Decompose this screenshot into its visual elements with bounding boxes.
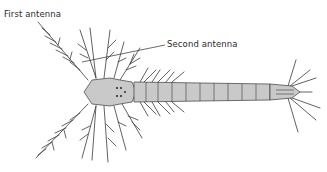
second-antenna-label: Second antenna: [167, 39, 238, 49]
head: [84, 78, 136, 106]
larva-drawing: [0, 0, 327, 172]
limbs-lower: [80, 104, 142, 162]
first-antenna-label: First antenna: [4, 9, 61, 19]
second-antenna-upper: [78, 28, 140, 80]
larva-illustration: First antenna Second antenna: [0, 0, 327, 172]
body-segments: [134, 82, 300, 102]
first-antenna-lower: [36, 104, 88, 158]
